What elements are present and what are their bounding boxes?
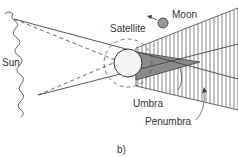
umbra-label: Umbra [133,99,163,109]
moon-label: Moon [172,10,197,20]
earth [114,49,142,77]
moon [158,18,168,28]
panel-label: b) [117,145,126,155]
penumbra-hatch [138,0,234,157]
moon-direction-arrow [147,15,152,19]
sun-label: Sun [2,58,20,68]
penumbra-label: Penumbra [145,117,191,127]
satellite-label: Satellite [110,24,146,34]
